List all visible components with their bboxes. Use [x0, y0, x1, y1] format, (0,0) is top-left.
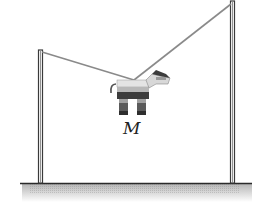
pinata-diagram: M: [0, 0, 259, 204]
rope: [42, 4, 231, 80]
ground: [20, 184, 252, 203]
pinata: [111, 70, 170, 115]
pinata-tail: [111, 84, 116, 93]
mass-label: M: [123, 120, 140, 137]
left-pole: [39, 50, 43, 183]
right-pole: [231, 1, 235, 183]
diagram-canvas: [0, 0, 259, 204]
